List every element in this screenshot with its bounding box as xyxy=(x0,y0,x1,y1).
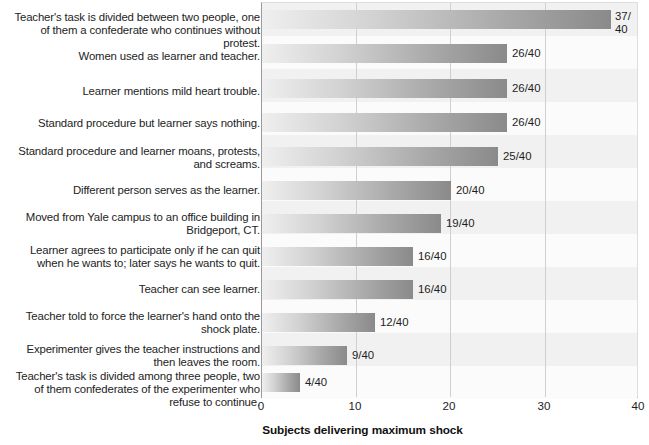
category-label: Experimenter gives the teacher instructi… xyxy=(8,343,260,369)
category-label: Different person serves as the learner. xyxy=(8,184,260,197)
x-axis-title: Subjects delivering maximum shock xyxy=(0,423,649,437)
x-tick-40: 40 xyxy=(632,399,645,412)
category-label: Learner mentions mild heart trouble. xyxy=(8,85,260,98)
bar-value-label: 20/40 xyxy=(456,184,485,197)
x-tick-0: 0 xyxy=(258,399,264,412)
category-label: Teacher can see learner. xyxy=(8,283,260,296)
bar-value-label: 16/40 xyxy=(418,283,447,296)
bar-value-label: 25/40 xyxy=(503,150,532,163)
bar-value-label: 16/40 xyxy=(418,250,447,263)
bar-value-label: 26/40 xyxy=(512,82,541,95)
category-label: Teacher told to force the learner's hand… xyxy=(8,310,260,336)
x-tick-20: 20 xyxy=(443,399,456,412)
bar xyxy=(262,147,498,166)
category-label: Learner agrees to participate only if he… xyxy=(8,244,260,270)
bar xyxy=(262,181,451,200)
bar xyxy=(262,113,507,132)
bar-value-label: 12/40 xyxy=(380,316,409,329)
bar xyxy=(262,313,375,332)
bar-value-label: 37/ 40 xyxy=(615,10,631,35)
category-label: Moved from Yale campus to an office buil… xyxy=(8,211,260,237)
x-tick-30: 30 xyxy=(538,399,551,412)
bar-value-label: 19/40 xyxy=(446,217,475,230)
bar-value-label: 4/40 xyxy=(305,376,327,389)
bar xyxy=(262,346,347,365)
bar-value-label: 26/40 xyxy=(512,116,541,129)
category-label: Teacher's task is divided among three pe… xyxy=(8,370,260,410)
bar xyxy=(262,214,441,233)
horizontal-bar-chart: Teacher's task is divided between two pe… xyxy=(0,0,649,445)
bar xyxy=(262,373,300,392)
bar xyxy=(262,44,507,63)
x-tick-10: 10 xyxy=(349,399,362,412)
gridline-30 xyxy=(545,3,546,397)
category-label: Standard procedure and learner moans, pr… xyxy=(8,145,260,171)
category-label: Standard procedure but learner says noth… xyxy=(8,117,260,130)
bar xyxy=(262,247,413,266)
bar xyxy=(262,79,507,98)
bar xyxy=(262,280,413,299)
category-label: Teacher's task is divided between two pe… xyxy=(8,11,260,51)
category-label: Women used as learner and teacher. xyxy=(8,50,260,63)
bar-value-label: 26/40 xyxy=(512,47,541,60)
bar xyxy=(262,10,611,29)
x-axis-title-text: Subjects delivering maximum shock xyxy=(186,423,463,437)
bar-value-label: 9/40 xyxy=(352,349,374,362)
